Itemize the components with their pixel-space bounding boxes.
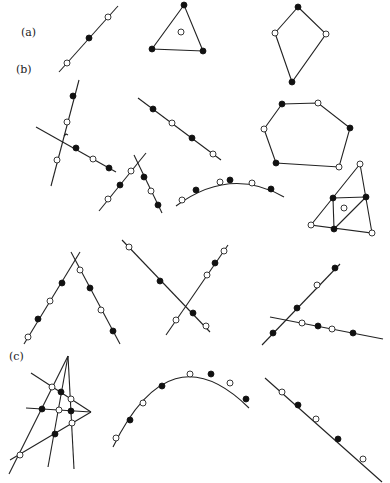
label-c: (c) <box>9 350 24 363</box>
figure-c-line <box>265 378 382 482</box>
diagram-canvas <box>0 0 390 483</box>
filled-point <box>190 310 196 316</box>
filled-point <box>189 135 195 141</box>
filled-point <box>330 195 336 201</box>
filled-point <box>227 177 233 183</box>
open-point <box>308 222 314 228</box>
open-point <box>126 244 132 250</box>
filled-point <box>289 79 295 85</box>
polygon-edge <box>275 7 326 82</box>
open-point <box>315 100 321 106</box>
polygon-edge <box>264 103 350 167</box>
filled-point <box>193 187 199 193</box>
open-point <box>148 188 154 194</box>
open-point <box>128 168 134 174</box>
filled-point <box>155 202 161 208</box>
filled-point <box>200 48 206 54</box>
figure-c-arc <box>113 371 249 447</box>
filled-point <box>117 182 123 188</box>
figure-row3-x <box>122 240 228 335</box>
line-segment <box>99 153 146 211</box>
polygon-edge <box>152 5 203 51</box>
line-segment <box>333 197 366 198</box>
filled-point <box>86 35 92 41</box>
open-point <box>313 416 319 422</box>
filled-point <box>87 285 93 291</box>
filled-point <box>39 406 45 412</box>
filled-point <box>141 174 147 180</box>
open-point <box>68 396 74 402</box>
open-point <box>54 157 60 163</box>
open-point <box>69 420 75 426</box>
filled-point <box>110 328 116 334</box>
open-point <box>49 384 55 390</box>
filled-point <box>35 316 41 322</box>
open-point <box>272 30 278 36</box>
open-point <box>64 119 70 125</box>
filled-point <box>149 46 155 52</box>
line-segment <box>334 197 366 229</box>
open-point <box>105 196 111 202</box>
open-point <box>323 31 329 37</box>
open-point <box>261 126 267 132</box>
line-segment <box>24 252 80 344</box>
figure-row3-lambda <box>24 252 120 344</box>
figure-a-line <box>59 6 118 72</box>
line-segment <box>270 317 383 339</box>
label-b: (b) <box>16 63 32 76</box>
filled-point <box>243 396 249 402</box>
polygon-edge <box>311 164 372 233</box>
open-point <box>221 248 227 254</box>
open-point <box>203 323 209 329</box>
filled-point <box>268 186 274 192</box>
filled-point <box>157 278 163 284</box>
filled-point <box>350 330 356 336</box>
filled-point <box>294 305 300 311</box>
figure-c-complete-quadrilateral <box>9 356 91 474</box>
filled-point <box>331 226 337 232</box>
open-point <box>204 272 210 278</box>
filled-point <box>58 389 64 395</box>
filled-point <box>295 4 301 10</box>
open-point <box>329 326 335 332</box>
filled-point <box>347 125 353 131</box>
open-point <box>178 29 184 35</box>
open-point <box>179 197 185 203</box>
filled-point <box>106 165 112 171</box>
figure-b-hexagon <box>261 100 353 170</box>
open-point <box>47 298 53 304</box>
curve-arc <box>176 183 284 206</box>
filled-point <box>73 145 79 151</box>
open-point <box>341 205 347 211</box>
open-point <box>299 320 305 326</box>
filled-point <box>52 431 58 437</box>
open-point <box>279 389 285 395</box>
curve-arc <box>113 377 249 447</box>
open-point <box>357 161 363 167</box>
filled-point <box>70 93 76 99</box>
filled-point <box>127 417 133 423</box>
open-point <box>173 317 179 323</box>
open-point <box>98 307 104 313</box>
open-point <box>105 14 111 20</box>
filled-point <box>363 194 369 200</box>
filled-point <box>181 2 187 8</box>
figure-row3-crossing <box>262 264 383 345</box>
open-point <box>249 180 255 186</box>
line-segment <box>122 240 210 332</box>
open-point <box>369 230 375 236</box>
figure-b-crossing-pair <box>36 80 116 186</box>
line-segment <box>333 198 334 229</box>
open-point <box>187 371 193 377</box>
figure-a-triangle <box>149 2 206 54</box>
figure-b-x-pair <box>99 153 162 213</box>
open-point <box>217 179 223 185</box>
filled-point <box>68 408 74 414</box>
filled-point <box>295 402 301 408</box>
open-point <box>314 282 320 288</box>
filled-point <box>335 436 341 442</box>
filled-point <box>273 160 279 166</box>
open-point <box>64 60 70 66</box>
open-point <box>56 407 62 413</box>
filled-point <box>208 371 214 377</box>
